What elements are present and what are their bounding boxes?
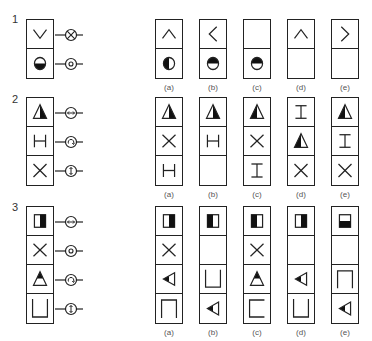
option-b-row-3[interactable] (199, 206, 227, 324)
option-label: (b) (199, 83, 227, 92)
triangle-left-filled-icon (244, 98, 270, 127)
option-d-row-1[interactable] (287, 19, 315, 79)
cap-icon (156, 294, 182, 323)
question-stack-row-3 (26, 206, 54, 324)
bracket-left-icon (244, 294, 270, 323)
empty-cell (200, 156, 226, 185)
option-b-row-2[interactable] (199, 97, 227, 186)
cup-icon (27, 294, 53, 323)
cross-circle-icon (55, 28, 89, 42)
question-stack-row-1 (26, 19, 54, 79)
option-e-row-3[interactable] (331, 206, 359, 324)
square-right-filled-icon (288, 207, 314, 236)
option-label: (a) (155, 328, 183, 337)
square-left-filled-icon (200, 207, 226, 236)
triangle-right-filled-icon (156, 98, 182, 127)
circle-top-filled-icon (244, 49, 270, 78)
triangle-left-filled-icon (288, 127, 314, 156)
square-right-filled-icon (156, 207, 182, 236)
option-label: (a) (155, 190, 183, 199)
option-e-row-1[interactable] (331, 19, 359, 79)
circle-top-filled-icon (200, 49, 226, 78)
row-number: 2 (12, 93, 18, 105)
option-d-row-3[interactable] (287, 206, 315, 324)
x-cross-icon (288, 156, 314, 185)
square-left-filled-icon (244, 207, 270, 236)
triangle-right-filled-icon (200, 98, 226, 127)
option-label: (e) (331, 328, 359, 337)
dot-circle-icon (55, 244, 89, 258)
empty-cell (332, 236, 358, 265)
x-cross-icon (156, 236, 182, 265)
row-number: 1 (12, 13, 18, 25)
x-cross-icon (27, 236, 53, 265)
question-stack-row-2 (26, 97, 54, 186)
option-a-row-3[interactable] (155, 206, 183, 324)
row-number: 3 (12, 201, 18, 213)
triangle-right-filled-icon (27, 98, 53, 127)
square-bottom-filled-icon (332, 207, 358, 236)
option-label: (b) (199, 328, 227, 337)
option-b-row-1[interactable] (199, 19, 227, 79)
vertical-arrows-circle-icon (55, 302, 89, 316)
x-cross-icon (332, 156, 358, 185)
horizontal-arrows-circle-icon (55, 215, 89, 229)
option-label: (e) (331, 83, 359, 92)
option-c-row-3[interactable] (243, 206, 271, 324)
chevron-down-icon (27, 20, 53, 49)
h-bar-icon (200, 127, 226, 156)
i-beam-icon (332, 127, 358, 156)
triangle-top-filled-icon (244, 265, 270, 294)
h-bar-icon (156, 156, 182, 185)
vertical-arrows-circle-icon (55, 164, 89, 178)
empty-cell (200, 236, 226, 265)
option-d-row-2[interactable] (287, 97, 315, 186)
rotate-circle-icon (55, 135, 89, 149)
cup-icon (288, 294, 314, 323)
empty-cell (288, 49, 314, 78)
cup-icon (200, 265, 226, 294)
option-label: (c) (243, 328, 271, 337)
circle-left-filled-icon (156, 49, 182, 78)
triangle-top-filled-icon (27, 265, 53, 294)
square-right-filled-icon (27, 207, 53, 236)
option-label: (d) (287, 190, 315, 199)
triangle-left-filled-icon (332, 98, 358, 127)
empty-cell (332, 49, 358, 78)
option-c-row-1[interactable] (243, 19, 271, 79)
empty-cell (288, 236, 314, 265)
option-c-row-2[interactable] (243, 97, 271, 186)
arrow-left-filled-icon (156, 265, 182, 294)
h-bar-icon (27, 127, 53, 156)
option-label: (d) (287, 328, 315, 337)
chevron-left-icon (200, 20, 226, 49)
empty-cell (244, 20, 270, 49)
cap-icon (332, 265, 358, 294)
arrow-left-filled-icon (200, 294, 226, 323)
horizontal-arrows-circle-icon (55, 106, 89, 120)
option-label: (e) (331, 190, 359, 199)
rotate-circle-icon (55, 273, 89, 287)
chevron-up-icon (156, 20, 182, 49)
i-beam-icon (288, 98, 314, 127)
option-label: (b) (199, 190, 227, 199)
option-a-row-2[interactable] (155, 97, 183, 186)
option-label: (a) (155, 83, 183, 92)
i-beam-icon (244, 156, 270, 185)
chevron-up-icon (288, 20, 314, 49)
circle-bottom-filled-icon (27, 49, 53, 78)
option-a-row-1[interactable] (155, 19, 183, 79)
option-label: (c) (243, 83, 271, 92)
chevron-right-icon (332, 20, 358, 49)
option-label: (c) (243, 190, 271, 199)
x-cross-icon (244, 127, 270, 156)
arrow-left-filled-icon (332, 294, 358, 323)
x-cross-icon (156, 127, 182, 156)
x-cross-icon (27, 156, 53, 185)
arrow-left-filled-icon (288, 265, 314, 294)
option-e-row-2[interactable] (331, 97, 359, 186)
x-cross-icon (244, 236, 270, 265)
option-label: (d) (287, 83, 315, 92)
dot-circle-icon (55, 57, 89, 71)
